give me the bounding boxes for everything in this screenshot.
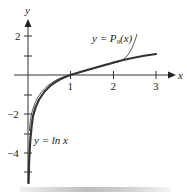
y-tick-label-2: 2 [15, 30, 21, 42]
x-axis-arrow-icon [168, 72, 176, 79]
ln-x-curve [29, 54, 156, 183]
y-tick-label-minus-4: −4 [7, 147, 19, 159]
x-tick-label-2: 2 [111, 80, 117, 92]
p9-annotation: y = P9(x) [91, 32, 133, 46]
ln-x-annotation: y = ln x [33, 134, 68, 146]
y-axis-label: y [24, 4, 30, 16]
x-tick-label-1: 1 [68, 80, 74, 92]
x-tick-label-3: 3 [153, 80, 159, 92]
y-tick-label-minus-2: −2 [7, 108, 19, 120]
bottom-gradient-bar [20, 187, 170, 192]
p9-curve [30, 34, 138, 131]
x-axis-label: x [177, 69, 183, 81]
y-axis-arrow-icon [25, 19, 32, 27]
chart-canvas: x y 1 2 3 2 −2 −4 y = P9(x) y = ln x [0, 0, 187, 195]
